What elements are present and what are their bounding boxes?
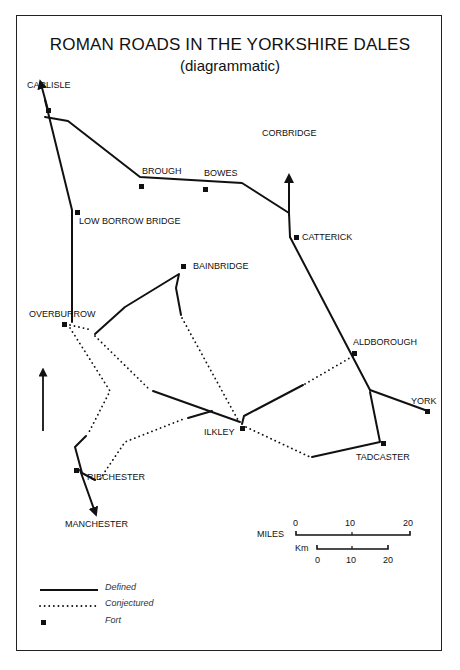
- conj-overburrow-ilkley: [95, 336, 150, 390]
- km-tick-10: 10: [346, 555, 356, 565]
- road-catterick-aldborough: [290, 237, 370, 390]
- defined-roads: [41, 84, 425, 512]
- label-ilkley: ILKLEY: [204, 427, 235, 437]
- conjectured-roads: [70, 318, 355, 479]
- label-corbridge: CORBRIDGE: [262, 128, 317, 138]
- fort-overburrow: [62, 322, 67, 327]
- label-low-borrow-bridge: LOW BORROW BRIDGE: [79, 216, 181, 226]
- scale-km-label: Km: [295, 543, 309, 553]
- scale-bar: MILES 0 10 20 Km 0 10 20: [257, 518, 413, 565]
- km-tick-0: 0: [315, 555, 320, 565]
- miles-tick-0: 0: [293, 518, 298, 528]
- label-bowes: BOWES: [204, 168, 238, 178]
- road-ilkley-aldborough: [242, 385, 303, 424]
- km-tick-20: 20: [383, 555, 393, 565]
- road-carlisle-overburrow: [45, 100, 72, 322]
- fort-carlisle: [46, 108, 51, 113]
- fort-brough: [139, 184, 144, 189]
- miles-tick-20: 20: [403, 518, 413, 528]
- road-ilkley-west: [153, 391, 240, 422]
- map-canvas: CARLISLE BROUGH BOWES CORBRIDGE LOW BORR…: [0, 0, 460, 670]
- label-aldborough: ALDBOROUGH: [353, 337, 417, 347]
- label-overburrow: OVERBURROW: [29, 309, 96, 319]
- label-manchester: MANCHESTER: [65, 519, 129, 529]
- conj-ribchester-ilkley: [100, 418, 186, 479]
- fort-catterick: [294, 235, 299, 240]
- conj-ilkley-tadcaster: [246, 427, 310, 457]
- conj-overburrow-bainbridge: [70, 325, 92, 330]
- miles-tick-10: 10: [345, 518, 355, 528]
- fort-aldborough: [352, 351, 357, 356]
- label-ribchester: RIBCHESTER: [87, 472, 146, 482]
- legend-defined-label: Defined: [105, 582, 137, 592]
- label-brough: BROUGH: [142, 166, 182, 176]
- place-labels: CARLISLE BROUGH BOWES CORBRIDGE LOW BORR…: [27, 80, 437, 529]
- label-catterick: CATTERICK: [302, 232, 352, 242]
- label-carlisle: CARLISLE: [27, 80, 71, 90]
- fort-ilkley: [240, 426, 245, 431]
- legend: Defined Conjectured Fort: [40, 582, 155, 625]
- fort-york: [425, 409, 430, 414]
- legend-conjectured-label: Conjectured: [105, 598, 155, 608]
- road-overburrow-bainbridge: [95, 274, 181, 334]
- legend-fort-swatch: [41, 620, 46, 625]
- road-ilkley-ribchester: [188, 411, 212, 418]
- label-bainbridge: BAINBRIDGE: [193, 261, 249, 271]
- fort-bowes: [203, 187, 208, 192]
- label-tadcaster: TADCASTER: [356, 452, 410, 462]
- fort-tadcaster: [381, 441, 386, 446]
- fort-low-borrow-bridge: [75, 210, 80, 215]
- road-junction-tadcaster: [312, 392, 380, 457]
- fort-bainbridge: [181, 264, 186, 269]
- label-york: YORK: [411, 396, 437, 406]
- conj-overburrow-ribchester: [70, 328, 110, 434]
- scale-miles-label: MILES: [257, 529, 284, 539]
- legend-fort-label: Fort: [105, 615, 122, 625]
- conj-aldborough: [305, 355, 355, 384]
- fort-ribchester: [74, 468, 79, 473]
